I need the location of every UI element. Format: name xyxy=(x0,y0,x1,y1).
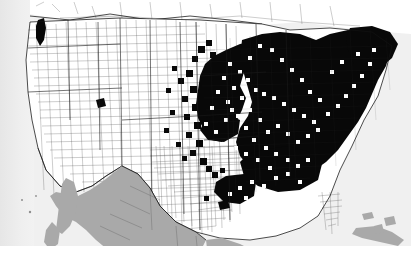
bahamas-north xyxy=(362,212,374,220)
bottom-white-margin xyxy=(0,246,411,257)
offshore-islands xyxy=(21,195,37,213)
caribbean-islands xyxy=(352,212,404,246)
map-canvas xyxy=(0,0,411,257)
baja-california xyxy=(56,178,78,234)
distribution-map xyxy=(0,0,411,257)
bahamas-south xyxy=(384,216,396,226)
